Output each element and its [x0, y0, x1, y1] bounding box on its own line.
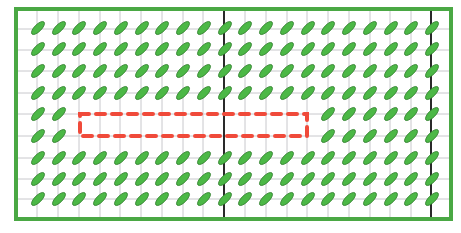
leaf-icon — [300, 20, 317, 37]
grid-canvas — [0, 0, 461, 233]
leaf-icon — [51, 41, 68, 58]
leaf-icon — [196, 20, 213, 37]
leaf-icon — [30, 20, 47, 37]
leaf-icon — [383, 41, 400, 58]
leaf-icon — [196, 41, 213, 58]
leaf-icon — [51, 20, 68, 37]
leaf-icon — [300, 41, 317, 58]
leaf-icon — [383, 20, 400, 37]
planting-grid-diagram — [0, 0, 461, 233]
leaf-icon — [134, 20, 151, 37]
leaf-icon — [134, 41, 151, 58]
leaf-icon — [113, 41, 130, 58]
selection-box[interactable] — [80, 114, 307, 136]
leaf-icon — [113, 20, 130, 37]
leaf-icon — [30, 41, 47, 58]
